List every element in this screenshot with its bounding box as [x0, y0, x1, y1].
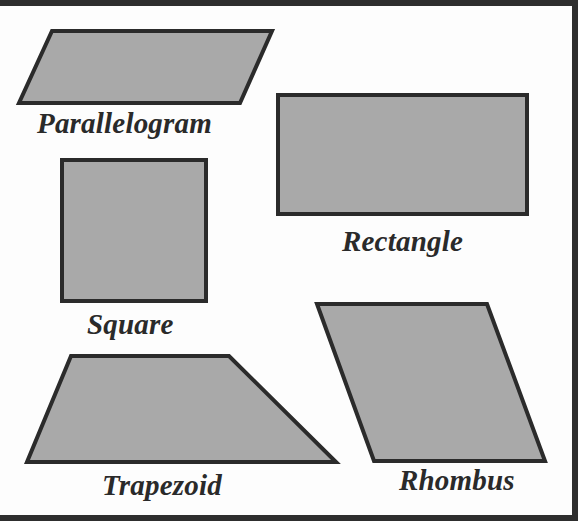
quadrilaterals-diagram: Parallelogram Rectangle Square Trapezoid… — [0, 0, 579, 521]
parallelogram-shape — [19, 31, 272, 103]
rhombus-shape — [317, 304, 545, 461]
shapes-layer — [0, 0, 579, 521]
rhombus-label: Rhombus — [399, 466, 515, 495]
square-label: Square — [87, 310, 174, 339]
trapezoid-label: Trapezoid — [102, 471, 222, 500]
trapezoid-shape — [27, 356, 336, 462]
rectangle-shape — [278, 95, 527, 214]
rectangle-label: Rectangle — [342, 227, 463, 256]
square-shape — [62, 160, 206, 301]
parallelogram-label: Parallelogram — [37, 109, 212, 138]
